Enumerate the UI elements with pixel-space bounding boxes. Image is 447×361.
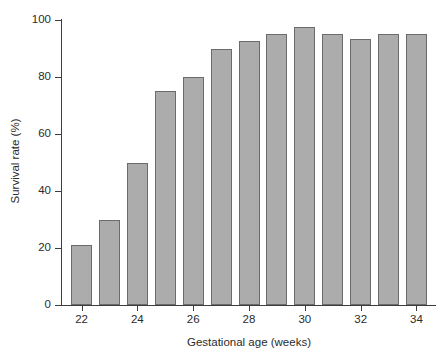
y-tick-label-text: 100	[1, 14, 51, 26]
x-tick-label: 26	[173, 314, 213, 326]
x-axis-title: Gestational age (weeks)	[62, 336, 436, 348]
y-tick-mark	[55, 77, 61, 78]
x-tick-label: 34	[396, 314, 436, 326]
x-tick-mark	[137, 306, 138, 311]
x-tick-mark	[249, 306, 250, 311]
x-tick-label: 28	[229, 314, 269, 326]
y-tick-label: 80	[0, 71, 51, 83]
bar-22-weeks	[71, 245, 92, 305]
bar-31-weeks	[322, 34, 343, 305]
y-tick-label: 0	[0, 299, 51, 311]
y-tick-mark	[55, 248, 61, 249]
y-tick-mark	[55, 191, 61, 192]
bar-23-weeks	[99, 220, 120, 306]
y-tick-label: 20	[0, 242, 51, 254]
bar-27-weeks	[211, 49, 232, 306]
y-tick-label: 40	[0, 185, 51, 197]
bar-28-weeks	[239, 41, 260, 305]
x-tick-label: 22	[62, 314, 102, 326]
x-tick-label: 32	[341, 314, 381, 326]
x-tick-mark	[416, 306, 417, 311]
y-axis-title: Survival rate (%)	[9, 101, 21, 221]
bar-29-weeks	[266, 34, 287, 305]
y-tick-mark	[55, 134, 61, 135]
bar-32-weeks	[350, 39, 371, 305]
x-tick-label: 24	[117, 314, 157, 326]
bar-34-weeks	[406, 34, 427, 305]
bar-33-weeks	[378, 34, 399, 305]
y-tick-label-text: 80	[1, 71, 51, 83]
y-tick-label: 100	[0, 14, 51, 26]
bar-24-weeks	[127, 163, 148, 306]
plot-area	[62, 20, 436, 305]
x-tick-mark	[82, 306, 83, 311]
y-tick-label: 60	[0, 128, 51, 140]
y-tick-mark	[55, 20, 61, 21]
bar-25-weeks	[155, 91, 176, 305]
chart-figure: 020406080100 22242628303234 Gestational …	[0, 0, 447, 361]
y-tick-label-text: 0	[1, 299, 51, 311]
bar-30-weeks	[294, 27, 315, 305]
y-tick-mark	[55, 305, 61, 306]
x-tick-mark	[361, 306, 362, 311]
x-tick-mark	[193, 306, 194, 311]
x-tick-mark	[305, 306, 306, 311]
x-tick-label: 30	[285, 314, 325, 326]
bar-26-weeks	[183, 77, 204, 305]
y-tick-label-text: 20	[1, 242, 51, 254]
